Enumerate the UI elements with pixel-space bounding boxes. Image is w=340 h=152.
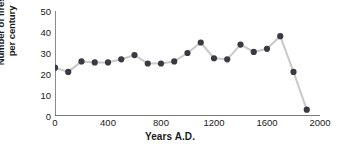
y-axis-tick-labels: 01020304050 bbox=[25, 11, 51, 116]
data-point-marker bbox=[184, 50, 190, 56]
data-point-marker bbox=[55, 65, 58, 71]
x-axis-tick-label: 1600 bbox=[247, 118, 287, 128]
fire-frequency-line-chart: Number of fires per century 01020304050 … bbox=[0, 0, 340, 152]
chart-svg bbox=[55, 11, 320, 116]
data-point-marker bbox=[237, 42, 243, 48]
x-axis-tick-labels: 0400800120016002000 bbox=[0, 118, 340, 130]
y-axis-tick-label: 50 bbox=[27, 7, 51, 16]
data-point-marker bbox=[78, 58, 84, 64]
x-axis-tick-label: 800 bbox=[141, 118, 181, 128]
x-axis-tick-label: 1200 bbox=[194, 118, 234, 128]
y-axis-tick-label: 30 bbox=[27, 49, 51, 58]
data-point-marker bbox=[198, 39, 204, 45]
data-point-marker bbox=[211, 55, 217, 61]
data-point-marker bbox=[251, 49, 257, 55]
x-axis-tick-label: 400 bbox=[88, 118, 128, 128]
plot-area bbox=[55, 11, 320, 116]
data-point-marker bbox=[224, 56, 230, 62]
y-axis-tick-label: 20 bbox=[27, 70, 51, 79]
y-axis-title: Number of fires per century bbox=[0, 0, 21, 83]
data-point-marker bbox=[171, 58, 177, 64]
x-axis-tick-label: 2000 bbox=[300, 118, 340, 128]
data-point-marker bbox=[277, 33, 283, 39]
data-point-marker bbox=[145, 60, 151, 66]
data-point-marker bbox=[92, 59, 98, 65]
y-axis-tick-label: 40 bbox=[27, 28, 51, 37]
data-point-marker bbox=[65, 69, 71, 75]
y-axis-tick-label: 10 bbox=[27, 91, 51, 100]
data-point-marker bbox=[131, 52, 137, 58]
data-point-marker bbox=[158, 60, 164, 66]
data-point-marker bbox=[290, 69, 296, 75]
data-point-marker bbox=[118, 56, 124, 62]
x-axis-tick-label: 0 bbox=[35, 118, 75, 128]
data-point-marker bbox=[264, 46, 270, 52]
data-point-marker bbox=[304, 107, 310, 113]
y-axis-title-line-2: per century bbox=[6, 0, 17, 83]
data-point-marker bbox=[105, 59, 111, 65]
x-axis-title: Years A.D. bbox=[0, 131, 340, 142]
